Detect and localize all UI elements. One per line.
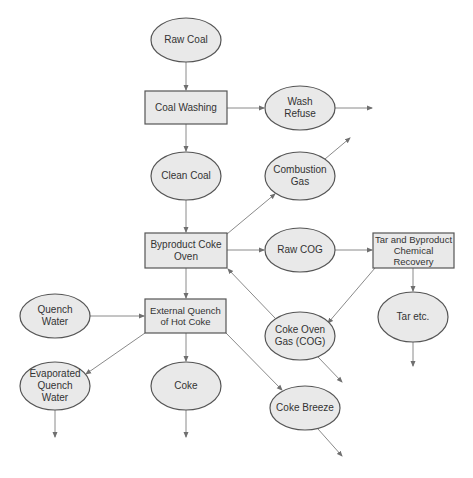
edge-tar-recovery-to-cog bbox=[328, 268, 375, 323]
node-combustion-gas: Combustion Gas bbox=[265, 152, 335, 200]
node-byproduct-coke-oven: Byproduct Coke Oven bbox=[150, 233, 222, 268]
node-tar-etc: Tar etc. bbox=[378, 292, 448, 342]
node-wash-refuse: Wash Refuse bbox=[275, 86, 325, 130]
node-coal-washing: Coal Washing bbox=[145, 91, 227, 124]
node-evaporated-quench-water: Evaporated Quench Water bbox=[25, 362, 85, 410]
edge-coke-breeze-out bbox=[318, 429, 342, 456]
node-quench-water: Quench Water bbox=[25, 294, 85, 338]
node-coke-breeze: Coke Breeze bbox=[270, 386, 340, 430]
node-clean-coal: Clean Coal bbox=[151, 152, 221, 200]
edge-cog-to-oven bbox=[228, 269, 275, 318]
node-raw-cog: Raw COG bbox=[265, 228, 335, 272]
node-coke: Coke bbox=[151, 362, 221, 410]
edge-quench-to-evaporated bbox=[86, 333, 145, 374]
node-coke-oven-gas: Coke Oven Gas (COG) bbox=[270, 312, 330, 360]
edges bbox=[55, 62, 413, 456]
node-raw-coal: Raw Coal bbox=[151, 18, 221, 62]
edge-cog-out bbox=[318, 357, 342, 382]
node-tar-recovery: Tar and Byproduct Chemical Recovery bbox=[373, 233, 454, 268]
node-external-quench: External Quench of Hot Coke bbox=[145, 299, 226, 333]
nodes bbox=[20, 18, 454, 430]
